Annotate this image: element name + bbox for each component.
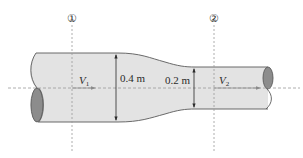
pipe-right-end-icon: [263, 67, 273, 89]
pipe-left-end-icon: [31, 88, 43, 122]
pipe-body: [30, 53, 268, 122]
pipe-flow-diagram: ① ② V1 V2 0.4 m 0.2 m: [0, 0, 303, 158]
section-1-marker: ①: [67, 12, 77, 24]
diameter-2-label: 0.2 m: [165, 74, 191, 86]
section-2-marker: ②: [209, 12, 219, 24]
diameter-1-label: 0.4 m: [120, 72, 146, 84]
